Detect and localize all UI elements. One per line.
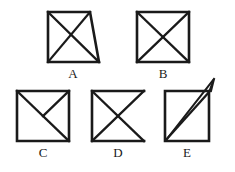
figure-c-label: C — [39, 145, 48, 160]
figure-b-label: B — [159, 66, 168, 81]
figure-d: D — [92, 91, 144, 160]
figure-c-half-diagonal-tr-center — [43, 91, 69, 116]
figure-d-label: D — [113, 145, 122, 160]
figure-board: A B C D E — [0, 0, 235, 172]
figure-e: E — [165, 79, 214, 160]
figure-a-label: A — [68, 66, 78, 81]
figures-svg: A B C D E — [0, 0, 235, 172]
figure-e-label: E — [183, 145, 191, 160]
figure-e-overshoot-line — [166, 79, 214, 140]
figure-a: A — [48, 12, 99, 81]
figure-c: C — [17, 91, 69, 160]
figure-b: B — [137, 12, 189, 81]
